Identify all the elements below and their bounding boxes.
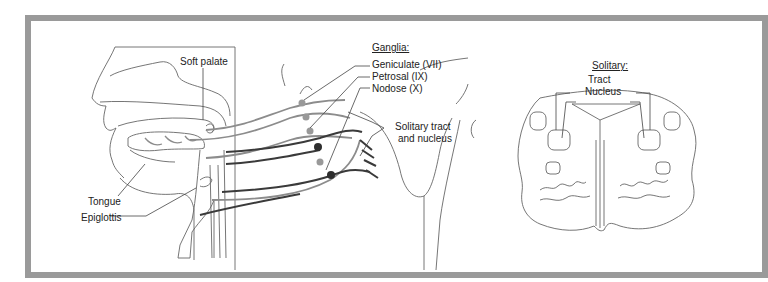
nerve-fibers-dark <box>200 130 378 215</box>
tract-leader <box>556 93 650 130</box>
nodose-ganglion-lower <box>327 171 335 179</box>
head-section-bracket <box>115 47 235 270</box>
fourth-ventricle-floor <box>572 104 640 120</box>
label-soft-palate: Soft palate <box>180 56 228 68</box>
hard-palate <box>118 118 214 132</box>
epiglottis-leader <box>110 188 196 216</box>
ganglia-heading: Ganglia: <box>372 42 409 54</box>
solitary-leader <box>348 112 384 156</box>
label-tongue: Tongue <box>88 196 121 208</box>
label-tract: Tract <box>588 74 610 86</box>
inferior-olive-right <box>618 180 670 198</box>
label-nucleus: Nucleus <box>585 86 621 98</box>
solitary-heading: Solitary: <box>592 60 628 72</box>
petrosal-ganglion-upper <box>303 114 310 121</box>
nasal-upper <box>110 62 230 116</box>
nodose-ganglion-upper <box>314 143 322 151</box>
ganglia-item-petrosal: Petrosal (IX) <box>372 71 428 83</box>
nasal-roof <box>100 101 226 126</box>
jaw <box>120 178 194 260</box>
midline <box>596 120 604 228</box>
label-and-nucleus: and nucleus <box>398 133 452 145</box>
ganglia-item-geniculate: Geniculate (VII) <box>372 59 441 71</box>
larynx <box>178 150 214 258</box>
tongue-taste-buds <box>145 136 196 145</box>
label-solitary-tract: Solitary tract <box>395 121 451 133</box>
medulla-outline <box>518 90 696 231</box>
label-epiglottis: Epiglottis <box>81 212 122 224</box>
geniculate-leader <box>304 66 370 100</box>
ganglia-item-nodose: Nodose (X) <box>372 83 423 95</box>
geniculate-ganglion <box>299 100 306 107</box>
inferior-olive-left <box>540 182 590 201</box>
face-profile <box>92 47 124 178</box>
